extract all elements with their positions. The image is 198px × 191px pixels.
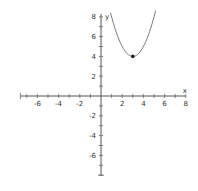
x-axis-label: x	[183, 87, 187, 95]
y-axis-label: y	[105, 13, 109, 21]
vertex-point	[131, 55, 135, 59]
y-tick-label: 4	[92, 53, 97, 61]
x-tick-label: 4	[141, 100, 146, 108]
x-tick-label: -4	[55, 100, 63, 108]
x-tick-label: -2	[76, 100, 83, 108]
x-tick-label: 6	[162, 100, 167, 108]
y-tick-label: 8	[92, 13, 96, 21]
x-tick-label: 8	[184, 100, 188, 108]
y-tick-label: 6	[92, 33, 97, 41]
x-tick-label: -6	[34, 100, 42, 108]
y-tick-label: -6	[89, 152, 97, 160]
x-tick-label: 2	[120, 100, 124, 108]
y-tick-label: 2	[92, 73, 96, 81]
parabola-curve	[111, 11, 156, 57]
y-tick-label: -4	[89, 132, 97, 140]
parabola-chart: -6-4-224688642-2-4-6xy	[0, 0, 198, 191]
y-tick-label: -2	[89, 112, 96, 120]
